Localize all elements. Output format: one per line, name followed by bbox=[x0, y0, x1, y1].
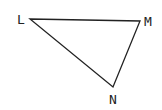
vertex-label-l: L bbox=[17, 12, 25, 27]
vertex-label-m: M bbox=[144, 14, 152, 29]
triangle-lmn bbox=[30, 19, 140, 87]
vertex-label-n: N bbox=[109, 92, 117, 107]
triangle-diagram: L M N bbox=[0, 0, 162, 110]
